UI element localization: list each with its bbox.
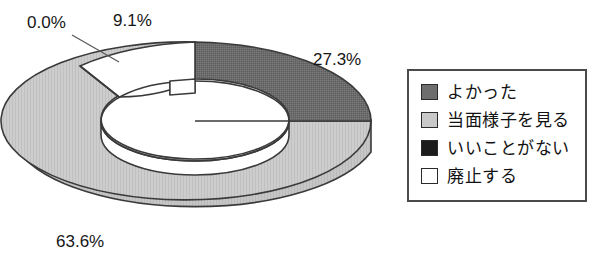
legend-swatch-dark-gray bbox=[421, 84, 438, 100]
pie-chart-figure: 0.0% 9.1% 27.3% 63.6% よかった 当面様子を見る いいことが… bbox=[0, 0, 605, 269]
legend-item-yokatta: よかった bbox=[421, 78, 585, 106]
data-label-light-slice: 63.6% bbox=[56, 232, 104, 252]
legend-label-tomen-yosu-wo-miru: 当面様子を見る bbox=[447, 112, 570, 129]
legend-swatch-light-gray bbox=[421, 112, 438, 128]
legend-item-ii-koto-ga-nai: いいことがない bbox=[421, 134, 585, 162]
chart-legend: よかった 当面様子を見る いいことがない 廃止する bbox=[407, 69, 587, 202]
legend-label-yokatta: よかった bbox=[447, 84, 517, 101]
legend-item-tomen-yosu-wo-miru: 当面様子を見る bbox=[421, 106, 585, 134]
legend-swatch-black bbox=[421, 140, 438, 156]
legend-item-haishi-suru: 廃止する bbox=[421, 162, 585, 190]
legend-label-ii-koto-ga-nai: いいことがない bbox=[447, 140, 570, 157]
legend-label-haishi-suru: 廃止する bbox=[447, 168, 517, 185]
data-label-white-slice: 9.1% bbox=[113, 11, 152, 31]
white-slice-hole-notch bbox=[170, 79, 195, 95]
legend-swatch-white bbox=[421, 168, 438, 184]
data-label-zero-percent: 0.0% bbox=[27, 13, 66, 33]
data-label-dark-slice: 27.3% bbox=[313, 50, 361, 70]
